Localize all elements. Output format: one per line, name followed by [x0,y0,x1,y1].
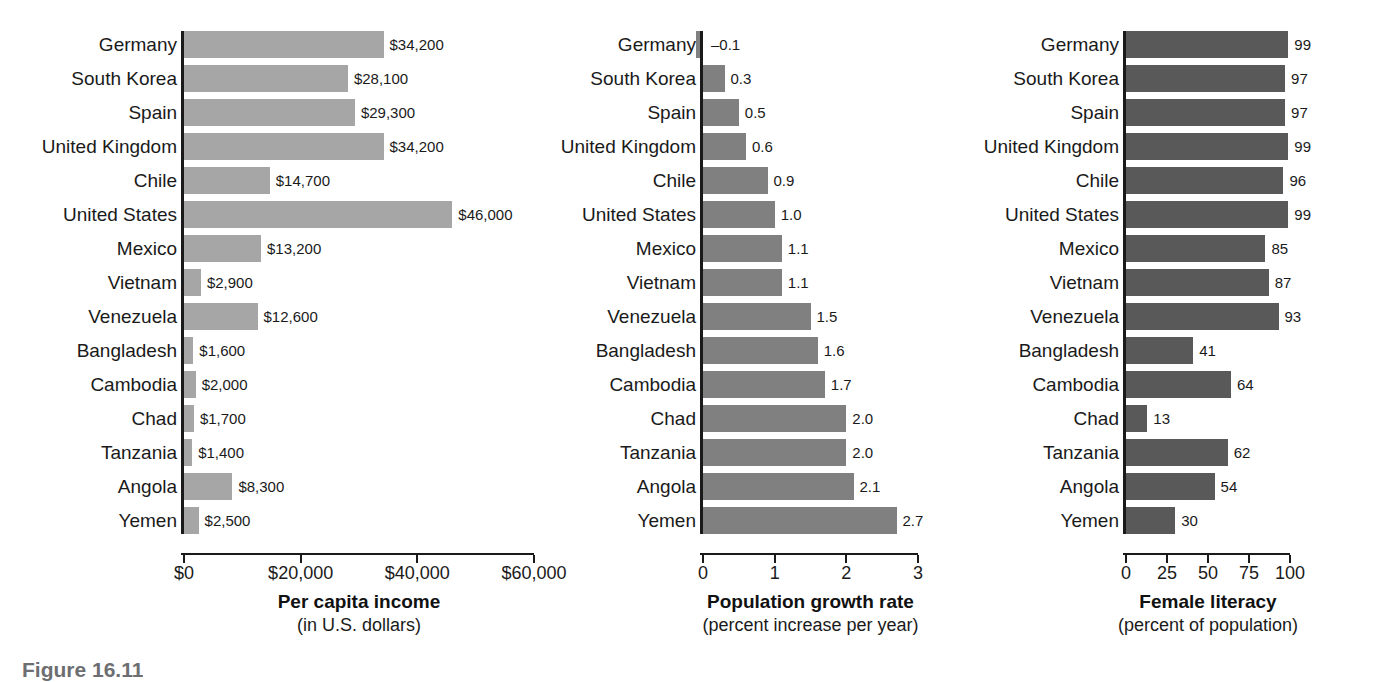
category-label: Spain [647,99,703,126]
bar-value-label: $1,700 [194,405,246,432]
bar-value-label: 85 [1265,235,1288,262]
bar-value-label: 30 [1175,507,1198,534]
bar [184,31,384,58]
category-label: Spain [128,99,184,126]
bar-value-label: 41 [1193,337,1216,364]
axis-tick [533,555,535,563]
category-label: Bangladesh [1019,337,1126,364]
category-label: United Kingdom [984,133,1126,160]
category-label: Germany [99,31,184,58]
bar [703,235,782,262]
category-label: Mexico [1059,235,1126,262]
bar [703,337,818,364]
bar [1126,405,1147,432]
category-label: Chile [134,167,184,194]
figure-caption: Figure 16.11 [22,658,143,682]
category-label: United Kingdom [561,133,703,160]
bar [184,99,355,126]
x-axis-subtitle: (percent increase per year) [702,615,918,636]
axis-tick [774,555,776,563]
axis-tick [183,555,185,563]
axis-tick-label: 3 [913,563,923,584]
category-label: Angola [637,473,703,500]
bar [1126,133,1288,160]
bar [703,167,768,194]
axis-tick-label: 2 [841,563,851,584]
axis-tick [1166,555,1168,563]
category-label: Vietnam [108,269,184,296]
category-label: Tanzania [101,439,184,466]
bar [184,133,384,160]
bar-value-label: $28,100 [348,65,408,92]
bar-value-label: $13,200 [261,235,321,262]
axis-tick [300,555,302,563]
bar-value-label: 1.1 [782,235,809,262]
x-axis-title: Population growth rate [707,591,914,613]
bar [703,405,846,432]
bar-value-label: $34,200 [384,31,444,58]
bar [184,405,194,432]
axis-tick-label: $40,000 [385,563,450,584]
bar [703,201,775,228]
axis-tick-label: $0 [174,563,194,584]
category-label: Germany [1041,31,1126,58]
axis-tick [1289,555,1291,563]
bar [1126,337,1193,364]
bar-value-label: $2,900 [201,269,253,296]
bar-value-label: 99 [1288,133,1311,160]
bar-value-label: $2,000 [196,371,248,398]
axis-tick [917,555,919,563]
bar-value-label: 1.5 [811,303,838,330]
bar-value-label: $29,300 [355,99,415,126]
bar [184,371,196,398]
bar-value-label: $1,600 [193,337,245,364]
bar [703,473,854,500]
category-label: Angola [1060,473,1126,500]
bar-value-label: 97 [1285,99,1308,126]
bar-value-label: 2.1 [854,473,881,500]
bar-value-label: 0.6 [746,133,773,160]
bar-value-label: 13 [1147,405,1170,432]
category-label: Bangladesh [77,337,184,364]
axis-tick [845,555,847,563]
bar-value-label: $12,600 [258,303,318,330]
bar [184,269,201,296]
bar-value-label: 2.0 [846,405,873,432]
category-label: Venezuela [1030,303,1126,330]
category-label: Tanzania [620,439,703,466]
x-axis-title: Female literacy [1139,591,1276,613]
bar-value-label: 93 [1279,303,1302,330]
category-label: South Korea [590,65,703,92]
x-axis-line [181,553,534,555]
bar-value-label: 0.3 [725,65,752,92]
bar-value-label: –0.1 [705,31,740,58]
category-label: Venezuela [88,303,184,330]
bar [184,439,192,466]
bar [184,167,270,194]
bar-value-label: 64 [1231,371,1254,398]
bar [184,507,199,534]
category-label: Vietnam [1050,269,1126,296]
bar [1126,439,1228,466]
category-label: Cambodia [609,371,703,398]
category-label: Bangladesh [596,337,703,364]
axis-tick [702,555,704,563]
bar-value-label: 96 [1283,167,1306,194]
category-label: Vietnam [627,269,703,296]
bar-value-label: 2.7 [897,507,924,534]
bar [1126,201,1288,228]
x-axis-subtitle: (percent of population) [1118,615,1298,636]
axis-tick-label: 0 [1121,563,1131,584]
bar-value-label: $8,300 [232,473,284,500]
category-label: Cambodia [1032,371,1126,398]
category-label: United States [1005,201,1126,228]
bar [1126,31,1288,58]
bar-value-label: $14,700 [270,167,330,194]
category-label: United Kingdom [42,133,184,160]
bar [1126,99,1285,126]
bar-value-label: $34,200 [384,133,444,160]
bar [1126,167,1283,194]
category-label: Mexico [117,235,184,262]
category-label: Yemen [119,507,184,534]
